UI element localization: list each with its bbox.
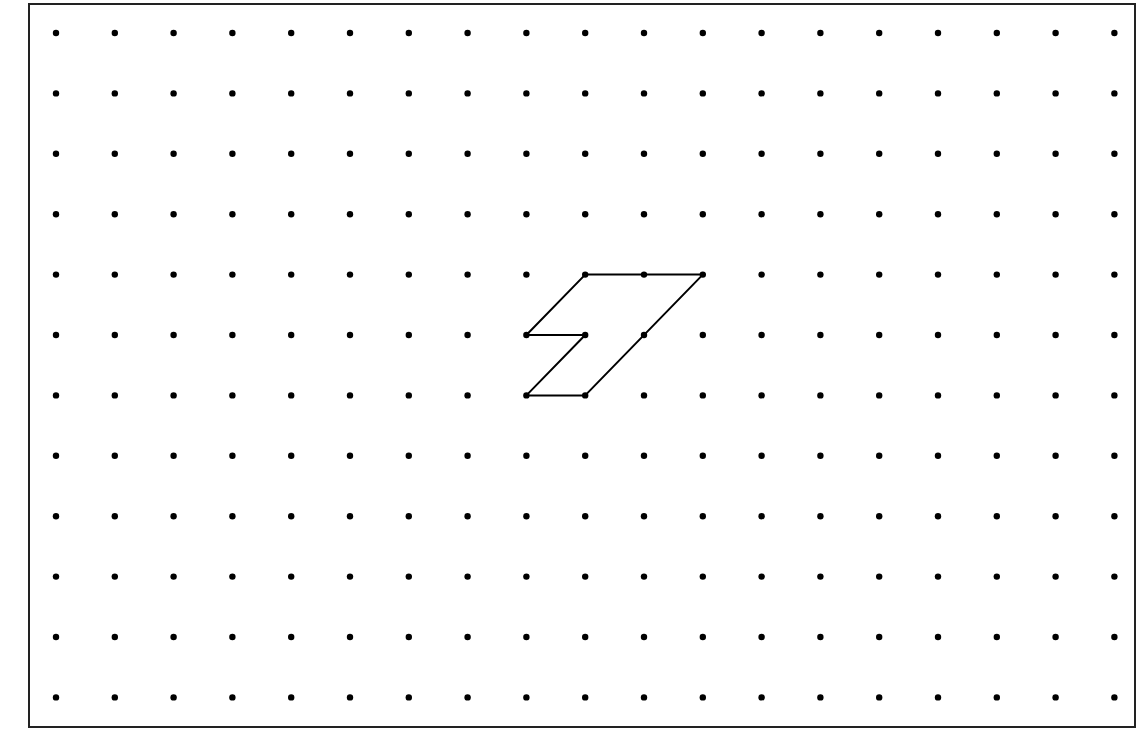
grid-dot: [288, 151, 294, 157]
grid-dot: [876, 271, 882, 277]
grid-dot: [641, 392, 647, 398]
grid-dot: [876, 392, 882, 398]
grid-dot: [935, 151, 941, 157]
grid-dot: [112, 634, 118, 640]
diagram-frame: [29, 4, 1135, 727]
grid-dot: [288, 634, 294, 640]
grid-dot: [700, 694, 706, 700]
grid-dot: [700, 211, 706, 217]
grid-dot: [229, 271, 235, 277]
grid-dot: [523, 513, 529, 519]
grid-dot: [464, 271, 470, 277]
grid-dot: [700, 392, 706, 398]
grid-dot: [170, 90, 176, 96]
grid-dot: [464, 90, 470, 96]
grid-dot: [53, 151, 59, 157]
grid-dot: [464, 513, 470, 519]
grid-dot: [347, 634, 353, 640]
grid-dot: [406, 151, 412, 157]
grid-dot: [935, 453, 941, 459]
grid-dot: [758, 694, 764, 700]
grid-dot: [170, 453, 176, 459]
grid-dot: [817, 573, 823, 579]
grid-dot: [935, 392, 941, 398]
grid-dot: [464, 634, 470, 640]
grid-dot: [406, 211, 412, 217]
grid-dot: [53, 634, 59, 640]
grid-dot: [1111, 30, 1117, 36]
grid-dot: [876, 211, 882, 217]
grid-dot: [288, 694, 294, 700]
grid-dot: [935, 332, 941, 338]
grid-dot: [347, 90, 353, 96]
grid-dot: [1111, 392, 1117, 398]
grid-dot: [817, 90, 823, 96]
grid-dot: [406, 634, 412, 640]
grid-dot: [112, 30, 118, 36]
grid-dot: [1111, 453, 1117, 459]
grid-dot: [347, 151, 353, 157]
grid-dot: [53, 453, 59, 459]
grid-dot: [641, 30, 647, 36]
grid-dot: [170, 694, 176, 700]
grid-dot: [817, 513, 823, 519]
grid-dot: [1111, 694, 1117, 700]
grid-dot: [994, 30, 1000, 36]
grid-dot: [464, 573, 470, 579]
grid-dot: [53, 573, 59, 579]
grid-dot: [758, 513, 764, 519]
grid-dot: [229, 90, 235, 96]
grid-dot: [170, 634, 176, 640]
grid-dot: [994, 392, 1000, 398]
grid-dot: [1111, 513, 1117, 519]
dot-grid-diagram: [0, 0, 1145, 741]
grid-dot: [53, 694, 59, 700]
grid-dot: [523, 211, 529, 217]
grid-dot: [700, 30, 706, 36]
grid-dot: [406, 332, 412, 338]
grid-dot: [994, 513, 1000, 519]
grid-dot: [112, 332, 118, 338]
grid-dot: [288, 332, 294, 338]
grid-dot: [582, 634, 588, 640]
grid-dot: [406, 30, 412, 36]
grid-dot: [994, 694, 1000, 700]
grid-dot: [1111, 634, 1117, 640]
grid-dot: [935, 513, 941, 519]
grid-dot: [935, 211, 941, 217]
grid-dot: [464, 151, 470, 157]
grid-dot: [1052, 513, 1058, 519]
grid-dot: [994, 90, 1000, 96]
grid-dot: [994, 453, 1000, 459]
grid-dot: [758, 634, 764, 640]
grid-dot: [112, 453, 118, 459]
grid-dot: [1052, 453, 1058, 459]
grid-dot: [582, 513, 588, 519]
grid-dot: [523, 634, 529, 640]
grid-dot: [935, 30, 941, 36]
grid-dot: [994, 151, 1000, 157]
grid-dot: [53, 332, 59, 338]
grid-dot: [994, 332, 1000, 338]
grid-dot: [1052, 90, 1058, 96]
grid-dot: [1052, 30, 1058, 36]
grid-dot: [347, 573, 353, 579]
grid-dot: [1052, 392, 1058, 398]
grid-dot: [758, 453, 764, 459]
grid-dot: [112, 392, 118, 398]
grid-dot: [170, 392, 176, 398]
grid-dot: [523, 694, 529, 700]
grid-dot: [1111, 332, 1117, 338]
grid-dot: [582, 694, 588, 700]
grid-dot: [582, 151, 588, 157]
grid-dot: [523, 271, 529, 277]
grid-dot: [582, 453, 588, 459]
grid-dot: [288, 211, 294, 217]
grid-dot: [464, 332, 470, 338]
grid-dot: [758, 392, 764, 398]
grid-dot: [641, 573, 647, 579]
grid-dot: [229, 634, 235, 640]
grid-dot: [112, 90, 118, 96]
grid-dot: [1052, 694, 1058, 700]
grid-dot: [700, 513, 706, 519]
